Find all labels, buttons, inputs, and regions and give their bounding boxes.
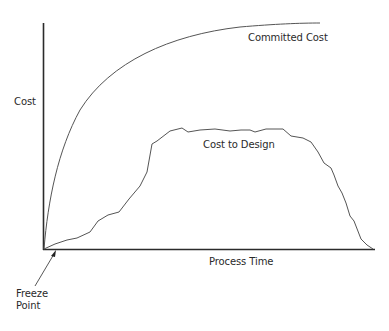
committed-cost-label: Committed Cost bbox=[248, 32, 328, 44]
x-axis-label: Process Time bbox=[209, 256, 273, 268]
committed-cost-curve bbox=[44, 23, 320, 249]
cost-to-design-label: Cost to Design bbox=[203, 139, 275, 151]
y-axis-label: Cost bbox=[14, 96, 36, 108]
freeze-point-label-line1: Freeze bbox=[16, 288, 48, 300]
diagram-canvas bbox=[0, 0, 389, 331]
freeze-point-label-line2: Point bbox=[16, 300, 40, 312]
freeze-point-arrow bbox=[35, 254, 54, 286]
freeze-point-arrowhead-icon bbox=[51, 250, 56, 257]
